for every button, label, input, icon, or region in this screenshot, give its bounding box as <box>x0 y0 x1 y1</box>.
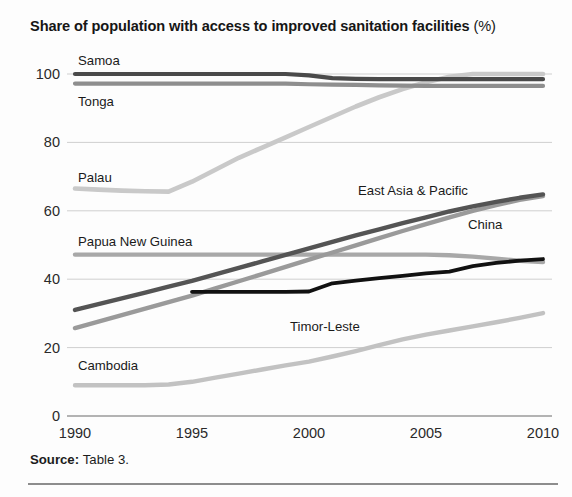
series-label-timor-leste: Timor-Leste <box>290 319 360 334</box>
y-tick-label-0: 0 <box>52 408 60 424</box>
series-line-tonga <box>75 84 543 86</box>
x-tick-label-2005: 2005 <box>410 425 442 440</box>
y-tick-label-60: 60 <box>44 203 60 219</box>
series-line-timor-leste <box>192 259 543 292</box>
source-note: Source: Table 3. <box>30 452 129 467</box>
footer-divider <box>28 483 558 485</box>
series-label-palau: Palau <box>78 170 112 185</box>
y-tick-label-100: 100 <box>36 66 60 82</box>
series-label-tonga: Tonga <box>78 94 115 109</box>
series-label-papua-new-guinea: Papua New Guinea <box>78 234 193 249</box>
series-label-china: China <box>468 217 503 232</box>
series-label-samoa: Samoa <box>78 53 120 68</box>
figure-container: Share of population with access to impro… <box>0 0 572 497</box>
series-line-china <box>75 196 543 328</box>
y-tick-label-80: 80 <box>44 134 60 150</box>
source-label: Source: <box>30 452 79 467</box>
x-tick-label-2000: 2000 <box>293 425 325 440</box>
y-tick-label-40: 40 <box>44 271 60 287</box>
x-axis-ticks: 19901995200020052010 <box>59 425 559 440</box>
plot-area: 02040608010019901995200020052010SamoaTon… <box>0 0 572 440</box>
series-label-cambodia: Cambodia <box>78 358 139 373</box>
x-tick-label-2010: 2010 <box>527 425 559 440</box>
source-value: Table 3. <box>83 452 129 467</box>
y-axis-ticks: 020406080100 <box>36 66 60 424</box>
y-tick-label-20: 20 <box>44 340 60 356</box>
series-line-palau <box>75 74 543 192</box>
x-tick-label-1990: 1990 <box>59 425 91 440</box>
series-label-east-asia-pacific: East Asia & Pacific <box>358 183 468 198</box>
line-chart: 02040608010019901995200020052010SamoaTon… <box>0 0 572 440</box>
x-tick-label-1995: 1995 <box>176 425 208 440</box>
